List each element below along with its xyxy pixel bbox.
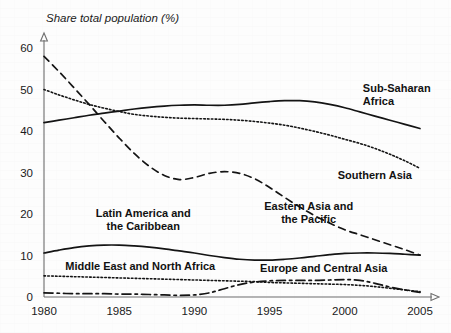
y-tick-label: 20 [20,208,33,220]
series-label-sub-saharan-africa: Sub-SaharanAfrica [363,82,431,107]
series-label-line: Latin America and [96,207,191,219]
series-label-line: Africa [363,95,395,107]
y-tick-label: 30 [20,167,33,179]
series-label-southern-asia: Southern Asia [338,169,413,181]
series-label-eastern-asia-and-the-pacific: Eastern Asia andthe Pacific [264,200,353,225]
x-axis-tick-labels: 198019851990199520002005 [31,305,433,317]
series-label-line: the Pacific [281,213,336,225]
line-chart: Share total population (%) 0102030405060… [0,0,451,333]
series-label-line: Sub-Saharan [363,82,431,94]
chart-container: Share total population (%) 0102030405060… [0,0,451,333]
series-line-europe-and-central-asia [44,280,420,296]
y-tick-label: 60 [20,42,33,54]
x-tick-label: 2005 [407,305,433,317]
y-axis-line [41,33,48,297]
series-label-europe-and-central-asia: Europe and Central Asia [260,262,388,274]
series-label-middle-east-and-north-africa: Middle East and North Africa [65,260,216,272]
y-tick-label: 50 [20,84,33,96]
chart-axis-title: Share total population (%) [46,12,179,24]
x-tick-label: 1985 [106,305,132,317]
x-tick-label: 1990 [182,305,208,317]
x-tick-label: 2000 [332,305,358,317]
series-label-line: the Caribbean [107,220,181,232]
series-label-line: Middle East and North Africa [65,260,216,272]
x-axis-line [44,294,439,301]
series-label-line: Europe and Central Asia [260,262,388,274]
y-tick-label: 10 [20,250,33,262]
y-axis-tick-labels: 0102030405060 [20,42,33,303]
y-tick-label: 40 [20,125,33,137]
series-label-line: Southern Asia [338,169,413,181]
x-tick-label: 1980 [31,305,57,317]
series-label-latin-america-and-the-caribbean: Latin America andthe Caribbean [96,207,191,232]
series-line-latin-america-and-the-caribbean [44,245,420,260]
x-tick-label: 1995 [257,305,283,317]
series-line-middle-east-and-north-africa [44,276,420,292]
series-label-line: Eastern Asia and [264,200,353,212]
y-tick-label: 0 [27,291,33,303]
